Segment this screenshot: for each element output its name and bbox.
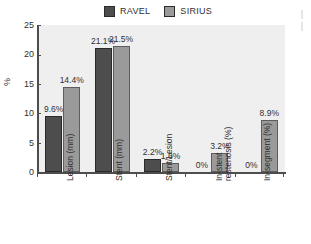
y-axis-tick: 20 bbox=[24, 49, 37, 59]
x-axis-tick bbox=[136, 173, 137, 177]
bar-value-label: 2.2% bbox=[143, 148, 162, 157]
legend-label-sirius: SIRIUS bbox=[180, 7, 212, 16]
page-edge-marks bbox=[301, 10, 307, 32]
bar-ravel-0 bbox=[45, 116, 62, 172]
x-axis-category-label: In-stentrestenosis (%) bbox=[215, 127, 233, 181]
x-axis-tick bbox=[283, 173, 284, 177]
x-axis-tick bbox=[185, 173, 186, 177]
bar-value-label: 0% bbox=[245, 161, 257, 170]
bar-value-label: 9.6% bbox=[44, 105, 63, 114]
y-axis-tick: 15 bbox=[24, 79, 37, 89]
x-axis-category-label: Lesion (mm) bbox=[66, 134, 75, 181]
bar-ravel-2 bbox=[144, 159, 161, 172]
x-axis-category-label: Stent (mm) bbox=[115, 139, 124, 181]
legend-swatch-sirius bbox=[164, 6, 175, 17]
x-axis-category-label: In-segment (%) bbox=[263, 123, 272, 181]
bar-value-label: 14.4% bbox=[60, 76, 84, 85]
y-axis-tick: 10 bbox=[24, 108, 37, 118]
legend-swatch-ravel bbox=[104, 6, 115, 17]
legend-entry-ravel: RAVEL bbox=[104, 6, 150, 17]
bar-ravel-1 bbox=[95, 48, 112, 172]
bar-value-label: 0% bbox=[196, 161, 208, 170]
y-axis-tick: 5 bbox=[29, 138, 37, 148]
legend-entry-sirius: SIRIUS bbox=[164, 6, 212, 17]
x-axis-category-label: Stent/Lesion bbox=[165, 134, 174, 181]
chart-legend: RAVEL SIRIUS bbox=[104, 6, 212, 17]
x-axis-tick bbox=[235, 173, 236, 177]
bar-value-label: 8.9% bbox=[260, 109, 279, 118]
x-axis-tick bbox=[37, 173, 38, 177]
bar-chart-figure: RAVEL SIRIUS 0510152025 % 9.6%14.4%21.1%… bbox=[0, 0, 311, 244]
legend-label-ravel: RAVEL bbox=[120, 7, 150, 16]
y-axis-label: % bbox=[2, 78, 12, 86]
y-axis-tick: 0 bbox=[29, 167, 37, 177]
y-axis-tick: 25 bbox=[24, 20, 37, 30]
x-axis-tick bbox=[86, 173, 87, 177]
bars-layer: 9.6%14.4%21.1%21.5%2.2%1.6%0%3.2%0%8.9% bbox=[38, 25, 285, 172]
bar-value-label: 21.5% bbox=[109, 35, 133, 44]
